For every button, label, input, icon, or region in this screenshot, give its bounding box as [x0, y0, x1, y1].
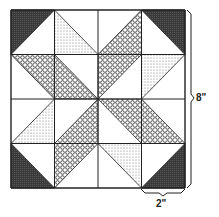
cell-size-bracket — [141, 189, 185, 196]
block-size-label: 8" — [196, 92, 206, 103]
triangle-patch-hatch — [98, 10, 142, 55]
triangle-patch-dot — [11, 99, 55, 144]
triangle-patch-hatch — [55, 55, 99, 100]
triangle-patch-hatch — [142, 99, 186, 144]
triangle-patch-dot — [98, 144, 142, 189]
triangle-patch-hatch — [55, 99, 99, 144]
block-size-bracket — [187, 10, 194, 188]
triangle-patch-hatch — [98, 55, 142, 100]
quilt-grid-lines — [11, 10, 185, 188]
triangle-patch-hatch — [98, 99, 142, 144]
quilt-block-diagram — [0, 0, 219, 217]
triangle-patch-dot — [142, 55, 186, 100]
cell-size-label: 2" — [156, 198, 166, 209]
triangle-patch-dark — [11, 10, 55, 55]
triangle-patch-hatch — [55, 144, 99, 189]
triangle-patch-dot — [55, 10, 99, 55]
triangle-patch-dark — [11, 144, 55, 189]
triangle-patch-hatch — [11, 55, 55, 100]
triangle-patch-dark — [142, 10, 186, 55]
triangle-patch-dark — [142, 144, 186, 189]
